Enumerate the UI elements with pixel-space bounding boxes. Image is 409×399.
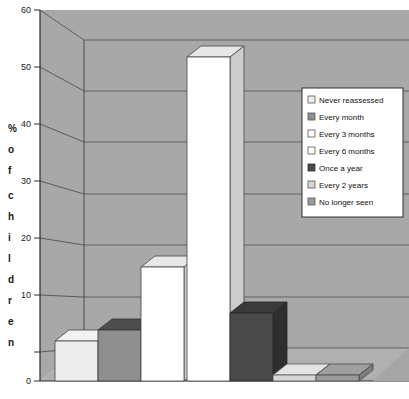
- y-axis-title-char-4: h: [8, 211, 14, 222]
- legend-label-every-2-years: Every 2 years: [319, 181, 368, 190]
- legend-label-never-reassessed: Never reassessed: [319, 96, 383, 105]
- y-axis-title-char-5: i: [8, 232, 11, 243]
- y-axis-title-char-8: r: [8, 295, 12, 306]
- legend: Never reassessed Every month Every 3 mon…: [302, 88, 403, 217]
- bar-front-face: [273, 375, 316, 381]
- y-axis-ticks: [34, 10, 40, 381]
- bar-front-face: [141, 267, 184, 381]
- y-tick-label-60: 60: [21, 5, 31, 15]
- legend-swatch-every-3-months: [308, 130, 315, 137]
- y-axis-title-char-7: d: [8, 274, 14, 285]
- legend-swatch-every-6-months: [308, 147, 315, 154]
- legend-label-every-3-months: Every 3 months: [319, 130, 375, 139]
- chart-top-bevel: [40, 10, 409, 40]
- legend-label-no-longer-seen: No longer seen: [319, 198, 373, 207]
- y-axis-title-char-10: n: [8, 337, 14, 348]
- chart-left-bevel: [40, 10, 84, 381]
- legend-label-every-6-months: Every 6 months: [319, 147, 375, 156]
- bar-front-face: [187, 57, 230, 381]
- chart-canvas: 60 50 40 30 20 10 0 % o f c h i l d r e …: [0, 0, 409, 399]
- legend-swatch-once-a-year: [308, 164, 315, 171]
- y-tick-label-0: 0: [26, 376, 31, 386]
- y-axis-tick-labels: 60 50 40 30 20 10 0: [21, 5, 31, 386]
- y-axis-title: % o f c h i l d r e n: [8, 123, 17, 348]
- bar-once-a-year: [230, 302, 287, 381]
- y-axis-title-char-2: f: [8, 165, 12, 176]
- y-axis-title-char-6: l: [8, 253, 11, 264]
- y-tick-label-20: 20: [21, 233, 31, 243]
- y-axis-title-char-1: o: [8, 144, 14, 155]
- y-tick-label-30: 30: [21, 176, 31, 186]
- legend-swatch-never-reassessed: [308, 96, 315, 103]
- y-tick-label-40: 40: [21, 119, 31, 129]
- y-tick-label-10: 10: [21, 290, 31, 300]
- legend-swatch-no-longer-seen: [308, 198, 315, 205]
- y-axis-title-char-3: c: [8, 190, 14, 201]
- y-axis-title-char-9: e: [8, 316, 14, 327]
- y-tick-label-50: 50: [21, 62, 31, 72]
- bar-front-face: [316, 375, 359, 381]
- y-axis-title-char-0: %: [8, 123, 17, 134]
- bar-front-face: [98, 330, 141, 381]
- bar-chart-figure: 60 50 40 30 20 10 0 % o f c h i l d r e …: [0, 0, 409, 399]
- legend-swatch-every-month: [308, 113, 315, 120]
- bar-front-face: [230, 313, 273, 381]
- legend-label-every-month: Every month: [319, 113, 364, 122]
- bar-front-face: [55, 341, 98, 381]
- legend-swatch-every-2-years: [308, 181, 315, 188]
- legend-label-once-a-year: Once a year: [319, 164, 363, 173]
